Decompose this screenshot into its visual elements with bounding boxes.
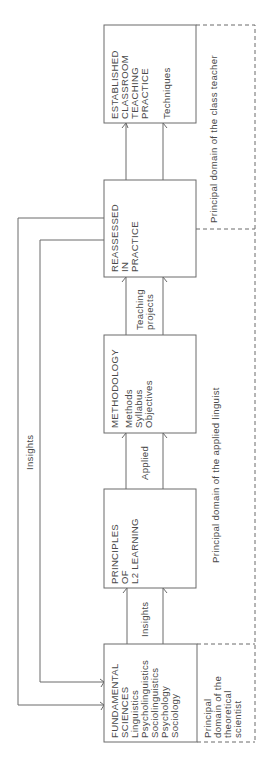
- connector-label: Insights: [139, 602, 150, 637]
- domain-labels: Principal domain of the class teacher Pr…: [202, 55, 243, 738]
- stage-item: Sociology: [169, 694, 180, 738]
- arrowhead-icon: [163, 123, 167, 128]
- arrowhead-icon: [122, 277, 126, 282]
- stage-established: ESTABLISHED CLASSROOM TEACHING PRACTICE …: [104, 25, 196, 123]
- stage-heading: REASSESSED: [109, 204, 120, 272]
- teacher-domain-border: [196, 25, 255, 742]
- domain-regions: [196, 25, 255, 742]
- stage-fundamental: FUNDAMENTAL SCIENCES Linguistics Psychol…: [104, 644, 197, 742]
- applied-linguist-domain-label: Principal domain of the applied linguist: [210, 387, 221, 563]
- feedback-line-inner: [40, 240, 104, 682]
- arrowhead-icon: [122, 123, 128, 128]
- arrowhead-icon: [163, 588, 167, 593]
- feedback-label: Insights: [24, 435, 35, 470]
- stage-heading: L2 LEARNING: [129, 518, 140, 584]
- applied-linguistics-model-diagram: Insights Teaching projects Applied Insig…: [0, 0, 274, 776]
- connector-label: projects: [144, 294, 155, 330]
- feedback-arrowhead-inner: [100, 679, 104, 687]
- arrowhead-icon: [122, 433, 126, 438]
- stage-heading: PRACTICE: [139, 68, 150, 119]
- arrowhead-icon: [163, 433, 167, 438]
- theoretical-domain-label: scientist: [232, 701, 243, 738]
- connector-label: Applied: [139, 446, 150, 480]
- feedback-arrowhead-outer: [100, 702, 104, 710]
- stage-item: Objectives: [143, 380, 154, 428]
- stage-methodology: METHODOLOGY Methods Syllabus Objectives: [104, 335, 196, 433]
- stage-principles: PRINCIPLES OF L2 LEARNING: [104, 489, 196, 588]
- teacher-domain-label: Principal domain of the class teacher: [208, 55, 219, 223]
- stage-item: Techniques: [161, 67, 172, 119]
- feedback-lines: Insights: [18, 218, 104, 710]
- arrowhead-icon: [163, 277, 167, 282]
- stage-heading: METHODOLOGY: [109, 349, 120, 428]
- stage-reassessed: REASSESSED IN PRACTICE: [104, 180, 196, 277]
- stage-heading: PRACTICE: [129, 221, 140, 272]
- arrowhead-icon: [123, 588, 127, 593]
